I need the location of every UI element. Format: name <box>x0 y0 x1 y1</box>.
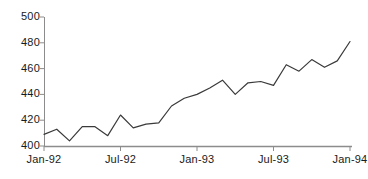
line-chart: 400420440460480500 Jan-92Jul-92Jan-93Jul… <box>0 0 368 179</box>
x-tick-label: Jan-92 <box>27 154 62 165</box>
x-tick-label: Jul-92 <box>105 154 136 165</box>
x-tick-label: Jan-93 <box>180 154 215 165</box>
x-tick-label: Jan-94 <box>333 154 368 165</box>
x-tick-label: Jul-93 <box>258 154 289 165</box>
x-axis-tick-labels: Jan-92Jul-92Jan-93Jul-93Jan-94 <box>0 0 368 179</box>
